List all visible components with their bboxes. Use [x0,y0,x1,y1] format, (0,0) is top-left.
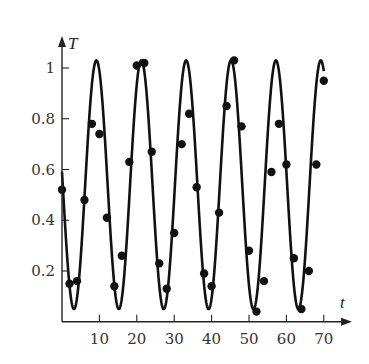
data-point [230,56,238,64]
fitted-curve-path [62,60,324,309]
chart: 10203040506070 t 0.20.40.60.81 T [0,0,369,364]
data-point [140,59,148,67]
x-axis-arrow-icon [341,318,352,326]
y-axis: 0.20.40.60.81 T [31,34,79,322]
y-tick-label: 0.8 [31,110,55,128]
x-ticks: 10203040506070 [90,315,333,348]
y-tick-label: 1 [45,59,55,77]
y-axis-arrow-icon [58,36,66,47]
y-tick-label: 0.2 [31,262,55,280]
data-point [275,120,283,128]
data-point [125,158,133,166]
data-point [95,130,103,138]
y-tick-label: 0.4 [31,211,55,229]
x-tick-label: 10 [90,330,109,348]
x-axis-label: t [340,293,346,312]
x-tick-label: 20 [127,330,146,348]
data-point [80,196,88,204]
data-point [73,277,81,285]
x-tick-label: 60 [277,330,296,348]
x-tick-label: 50 [239,330,258,348]
data-point [237,122,245,130]
data-point [200,269,208,277]
data-point [207,282,215,290]
data-point [320,76,328,84]
data-point [163,285,171,293]
data-point [155,259,163,267]
data-point [118,252,126,260]
data-point [297,305,305,313]
data-point [222,102,230,110]
data-point [185,109,193,117]
x-tick-label: 70 [314,330,333,348]
data-point [133,61,141,69]
data-point [215,208,223,216]
data-point [267,168,275,176]
data-point [65,279,73,287]
y-axis-label: T [68,34,79,53]
y-tick-label: 0.6 [31,161,55,179]
x-tick-label: 30 [165,330,184,348]
y-ticks: 0.20.40.60.81 [31,59,69,280]
data-point [260,277,268,285]
data-point [245,247,253,255]
data-point [110,282,118,290]
data-point [252,307,260,315]
data-point [282,160,290,168]
data-point [290,254,298,262]
data-point [103,214,111,222]
data-point [170,229,178,237]
data-point [305,267,313,275]
data-point [177,140,185,148]
x-tick-label: 40 [202,330,221,348]
data-point [88,120,96,128]
data-point [148,148,156,156]
data-point [312,160,320,168]
data-point [192,183,200,191]
fitted-curve [62,60,324,309]
